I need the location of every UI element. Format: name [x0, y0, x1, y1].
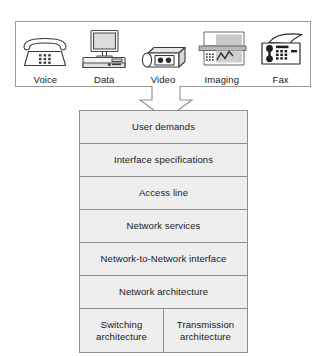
video-camera-icon: [135, 29, 191, 73]
service-item-fax: Fax: [252, 24, 310, 86]
layer-row: Network architecture: [80, 276, 247, 309]
layer-row-split: Switching architecture Transmission arch…: [80, 309, 247, 353]
layer-label-switching-architecture: Switching architecture: [80, 319, 163, 343]
service-item-video: Video: [134, 24, 192, 86]
service-item-imaging: Imaging: [193, 24, 251, 86]
service-label-video: Video: [151, 73, 176, 86]
service-types-panel: Voice: [15, 21, 311, 87]
layer-label-network-architecture: Network architecture: [115, 286, 212, 298]
fax-machine-icon: [253, 29, 309, 73]
layer-row: Network services: [80, 210, 247, 243]
layer-label-access-line: Access line: [135, 187, 192, 199]
service-types-row: Voice: [16, 22, 310, 86]
telephone-icon: [17, 29, 73, 73]
layer-row: Network-to-Network interface: [80, 243, 247, 276]
layer-row: Interface specifications: [80, 144, 247, 177]
service-label-imaging: Imaging: [205, 73, 240, 86]
service-label-fax: Fax: [273, 73, 289, 86]
layer-row: User demands: [80, 111, 247, 144]
layer-cell-switching-architecture: Switching architecture: [80, 309, 163, 352]
desktop-computer-icon: [76, 29, 132, 73]
service-item-data: Data: [75, 24, 133, 86]
layer-row: Access line: [80, 177, 247, 210]
layer-label-user-demands: User demands: [128, 121, 199, 133]
layer-label-network-to-network-interface: Network-to-Network interface: [97, 253, 231, 265]
service-item-voice: Voice: [16, 24, 74, 86]
image-scanner-icon: [194, 29, 250, 73]
service-label-data: Data: [94, 73, 114, 86]
layer-label-network-services: Network services: [123, 220, 205, 232]
layer-label-transmission-architecture: Transmission architecture: [164, 319, 247, 343]
service-label-voice: Voice: [34, 73, 58, 86]
layer-cell-transmission-architecture: Transmission architecture: [163, 309, 247, 352]
network-architecture-diagram: Voice: [0, 0, 330, 356]
architecture-layer-stack: User demands Interface specifications Ac…: [79, 110, 248, 353]
layer-label-interface-specifications: Interface specifications: [110, 154, 217, 166]
